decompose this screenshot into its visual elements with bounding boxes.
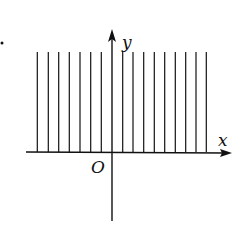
x-axis-label: x: [218, 130, 228, 150]
x-axis: [26, 152, 226, 153]
vertical-hatch-lines: [37, 52, 206, 152]
y-axis-label: y: [121, 32, 132, 52]
origin-label: O: [91, 157, 105, 177]
stray-dot: [1, 42, 4, 45]
coordinate-diagram: y x O: [0, 0, 248, 231]
